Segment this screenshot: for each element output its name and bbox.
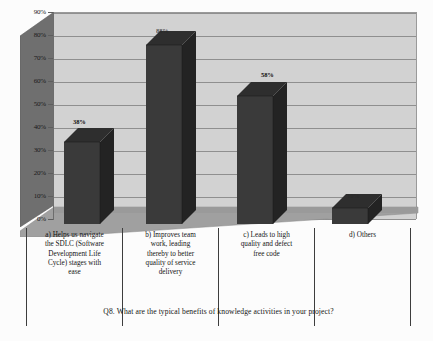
y-tick-0: 0%: [0, 215, 46, 224]
category-line: quality and defect: [222, 240, 311, 249]
category-line: delivery: [126, 268, 215, 277]
y-tick-mark: [48, 127, 53, 128]
figure-frame: 90% 80% 70% 60% 50% 40% 30% 20%: [0, 0, 433, 341]
category-cell-b: b) Improves team work, leading thereby t…: [123, 228, 219, 296]
gridline: [54, 36, 416, 37]
y-tick-90: 90%: [0, 8, 46, 17]
y-tick-40: 40%: [0, 123, 46, 132]
y-tick-mark: [48, 196, 53, 197]
y-tick-mark: [48, 150, 53, 151]
category-line: c) Leads to high: [222, 231, 311, 240]
category-line: quality of service: [126, 259, 215, 268]
gridline: [54, 82, 416, 83]
y-tick-mark: [48, 12, 53, 13]
bar-value-a: 38%: [73, 118, 86, 125]
y-tick-20: 20%: [0, 169, 46, 178]
y-tick-mark: [48, 35, 53, 36]
y-axis: [53, 12, 54, 220]
category-line: d) Others: [318, 231, 407, 240]
y-tick-30: 30%: [0, 146, 46, 155]
bar-column-c[interactable]: [237, 82, 289, 224]
y-tick-label: 20%: [34, 169, 46, 177]
y-tick-70: 70%: [0, 54, 46, 63]
category-line: thereby to better: [126, 250, 215, 259]
y-tick-10: 10%: [0, 192, 46, 201]
y-tick-60: 60%: [0, 77, 46, 86]
y-tick-label: 60%: [34, 77, 46, 85]
y-tick-80: 80%: [0, 31, 46, 40]
y-tick-label: 30%: [34, 146, 46, 154]
category-cell-d: d) Others: [315, 228, 410, 296]
category-line: free code: [222, 250, 311, 259]
caption-box: Q8. What are the typical benefits of kno…: [26, 296, 411, 326]
category-line: b) Improves team: [126, 231, 215, 240]
bar-column-a[interactable]: [64, 128, 116, 224]
y-tick-mark: [48, 104, 53, 105]
chart-figure: 90% 80% 70% 60% 50% 40% 30% 20%: [0, 0, 433, 341]
gridline: [54, 59, 416, 60]
category-line: ease: [30, 268, 119, 277]
category-label-table: a) Helps us navigate the SDLC (Software …: [26, 228, 411, 296]
category-line: the SDLC (Software: [30, 240, 119, 249]
gridline: [54, 13, 416, 14]
y-tick-mark: [48, 219, 53, 220]
bar-value-c: 58%: [261, 71, 274, 78]
y-tick-label: 10%: [34, 192, 46, 200]
category-cell-c: c) Leads to high quality and defect free…: [219, 228, 315, 296]
bar-column-b[interactable]: [146, 31, 198, 224]
y-tick-50: 50%: [0, 100, 46, 109]
chart-caption: Q8. What are the typical benefits of kno…: [103, 307, 333, 316]
y-tick-label: 0%: [37, 215, 46, 223]
y-tick-mark: [48, 173, 53, 174]
y-tick-label: 70%: [34, 54, 46, 62]
category-line: work, leading: [126, 240, 215, 249]
category-line: a) Helps us navigate: [30, 231, 119, 240]
y-tick-label: 90%: [34, 8, 46, 16]
y-tick-mark: [48, 58, 53, 59]
category-cell-a: a) Helps us navigate the SDLC (Software …: [27, 228, 123, 296]
y-tick-mark: [48, 81, 53, 82]
bar-value-b: 88%: [156, 27, 169, 34]
y-tick-label: 50%: [34, 100, 46, 108]
gridline: [54, 105, 416, 106]
category-line: Cycle) stages with: [30, 259, 119, 268]
y-tick-label: 80%: [34, 31, 46, 39]
y-tick-label: 40%: [34, 123, 46, 131]
category-line: Development Life: [30, 250, 119, 259]
bar-value-d: 10%: [347, 192, 360, 199]
